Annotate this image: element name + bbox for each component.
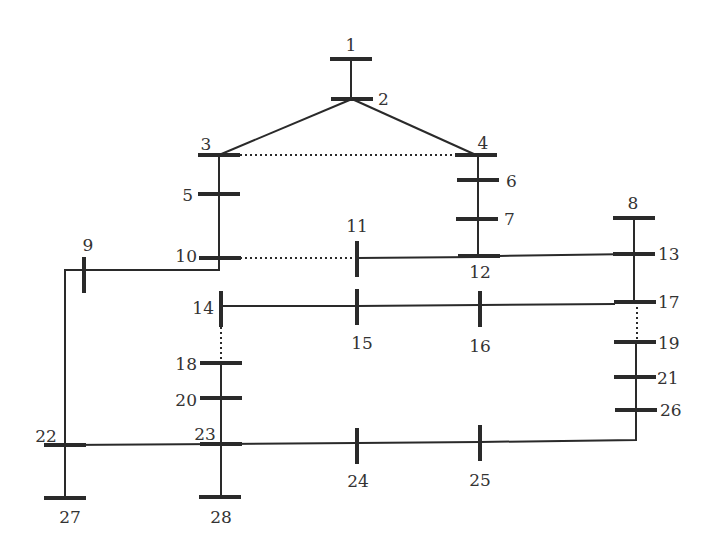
bus-label-17: 17	[658, 292, 680, 312]
branch-line-22-23	[65, 444, 221, 445]
bus-label-20: 20	[175, 390, 197, 410]
bus-label-21: 21	[657, 368, 679, 388]
branch-line-15-16	[357, 305, 480, 306]
bus-label-25: 25	[469, 470, 491, 490]
bus-label-7: 7	[504, 209, 515, 229]
bus-label-14: 14	[192, 298, 214, 318]
bus-label-8: 8	[628, 193, 639, 213]
branch-line-9-22	[65, 270, 84, 445]
bus-label-5: 5	[182, 185, 193, 205]
branch-line-16-17	[480, 304, 615, 305]
bus-bars	[44, 59, 657, 498]
bus-label-9: 9	[83, 235, 94, 255]
bus-label-1: 1	[346, 35, 357, 55]
branch-lines	[65, 59, 637, 498]
branch-line-2-4	[352, 99, 476, 155]
branch-line-10-9	[84, 258, 219, 270]
bus-label-28: 28	[210, 507, 232, 527]
bus-label-13: 13	[658, 244, 680, 264]
bus-label-19: 19	[658, 333, 680, 353]
bus-label-12: 12	[469, 262, 491, 282]
bus-label-6: 6	[506, 171, 517, 191]
bus-label-24: 24	[347, 471, 369, 491]
branch-line-24-25	[357, 442, 480, 443]
network-diagram: 1234567891011121314151617181920212223242…	[0, 0, 718, 552]
bus-label-26: 26	[660, 400, 682, 420]
bus-label-15: 15	[351, 333, 373, 353]
bus-label-2: 2	[378, 89, 389, 109]
bus-label-16: 16	[469, 336, 491, 356]
bus-label-11: 11	[346, 216, 368, 236]
branch-line-25-26	[480, 410, 636, 442]
bus-label-18: 18	[175, 354, 197, 374]
bus-label-4: 4	[478, 133, 489, 153]
bus-label-23: 23	[194, 424, 216, 444]
bus-label-27: 27	[59, 507, 81, 527]
bus-label-3: 3	[201, 134, 212, 154]
bus-label-10: 10	[175, 246, 197, 266]
bus-label-22: 22	[35, 426, 57, 446]
branch-line-2-3	[219, 99, 352, 155]
